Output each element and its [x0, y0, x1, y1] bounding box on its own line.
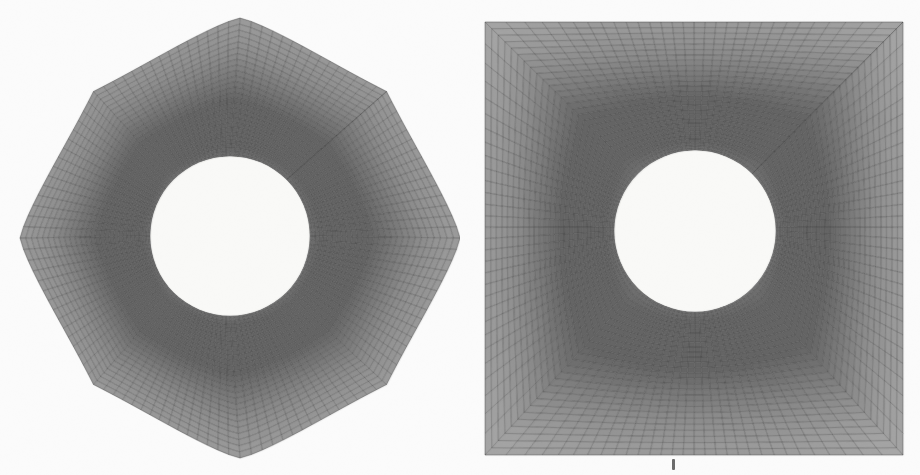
- panel-left-mesh: [0, 0, 460, 475]
- figure-root: [0, 0, 920, 475]
- right-mesh-canvas: [460, 0, 920, 475]
- left-mesh-canvas: [0, 0, 460, 475]
- bottom-tick-mark: [672, 459, 675, 470]
- panel-right-mesh: [460, 0, 920, 475]
